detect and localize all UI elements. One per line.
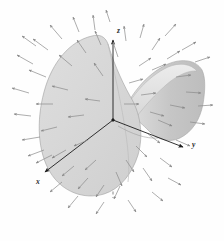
axis-label-y: y (191, 140, 196, 149)
axis-label-x: x (35, 177, 40, 186)
figure-canvas: x y z (0, 0, 224, 241)
axis-label-z: z (116, 26, 120, 35)
vector-field-saddle-figure: x y z (0, 0, 224, 241)
origin-point (112, 119, 114, 121)
